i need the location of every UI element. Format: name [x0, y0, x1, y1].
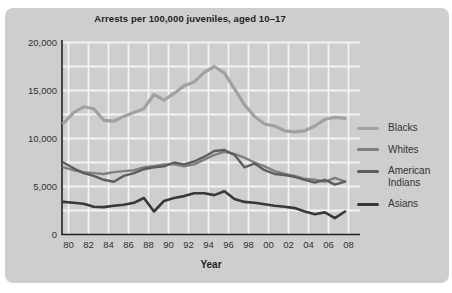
x-tick-label: 04 — [303, 239, 314, 250]
x-tick-label: 00 — [263, 239, 274, 250]
series-line-asians — [64, 191, 346, 218]
legend-item-american-indians: American Indians — [357, 165, 451, 188]
y-tick-label: 20,000 — [28, 37, 57, 48]
legend-label-asians: Asians — [388, 198, 418, 210]
legend-item-asians: Asians — [357, 198, 451, 210]
legend-label-whites: Whites — [388, 144, 419, 156]
x-tick-label: 90 — [163, 239, 174, 250]
legend-item-whites: Whites — [357, 144, 451, 156]
x-tick-label: 98 — [243, 239, 254, 250]
x-tick-label: 92 — [183, 239, 194, 250]
legend-swatch-whites — [357, 148, 379, 151]
x-tick-label: 06 — [323, 239, 334, 250]
chart-legend: Blacks Whites American Indians Asians — [357, 122, 451, 220]
x-tick-label: 08 — [343, 239, 354, 250]
x-tick-label: 84 — [103, 239, 114, 250]
legend-swatch-asians — [357, 203, 379, 206]
x-tick-label: 96 — [223, 239, 234, 250]
x-tick-label: 80 — [63, 239, 74, 250]
x-tick-label: 94 — [203, 239, 214, 250]
x-tick-label: 86 — [123, 239, 134, 250]
tick-labels: 05,00010,00015,00020,0008082848688909294… — [28, 37, 354, 250]
y-tick-label: 0 — [52, 229, 57, 240]
series-line-blacks — [64, 67, 346, 132]
legend-item-blacks: Blacks — [357, 122, 451, 134]
x-tick-label: 02 — [283, 239, 294, 250]
legend-label-blacks: Blacks — [388, 122, 417, 134]
series-line-american-indians — [64, 150, 346, 185]
x-tick-label: 82 — [83, 239, 94, 250]
y-tick-label: 5,000 — [33, 181, 57, 192]
y-tick-label: 15,000 — [28, 85, 57, 96]
legend-swatch-american-indians — [357, 170, 379, 173]
x-tick-label: 88 — [143, 239, 154, 250]
legend-label-american-indians: American Indians — [388, 165, 451, 188]
x-axis-title: Year — [62, 259, 360, 270]
y-tick-label: 10,000 — [28, 133, 57, 144]
legend-swatch-blacks — [357, 127, 379, 131]
